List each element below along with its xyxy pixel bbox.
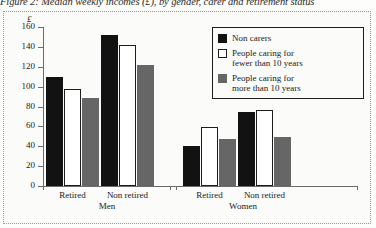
x-axis-group-separator [43,186,44,190]
chart-legend: Non carers People caring for fewer than … [212,27,364,99]
legend-swatch-icon-non-carers [218,34,227,43]
bar [238,112,255,186]
legend-label-line1: Non carers [232,33,271,43]
y-axis-tick-label: 140 [8,42,35,51]
x-axis-group-separator [176,186,177,190]
bar [219,139,236,186]
legend-label-line1: People caring for [232,73,294,83]
y-axis-tick-label: 120 [8,62,35,71]
x-axis-group-separator [357,186,358,190]
bar [119,45,136,186]
y-axis-tick [38,107,44,108]
y-axis-tick-label: 60 [8,121,35,130]
x-axis-category-label: Non retired [83,190,173,200]
y-axis-tick [38,126,44,127]
legend-swatch-icon-more-than-10-years [218,74,227,83]
bar [256,110,273,186]
legend-item-more-than-10-years: People caring for more than 10 years [218,73,359,93]
bar [183,146,200,186]
y-axis-tick [38,146,44,147]
y-axis-tick [38,87,44,88]
y-axis-tick [38,67,44,68]
x-axis-line [43,186,357,187]
legend-item-non-carers: Non carers [218,33,359,43]
legend-label-fewer-than-10-years: People caring for fewer than 10 years [232,48,303,68]
legend-label-non-carers: Non carers [232,33,271,43]
legend-label-line2: more than 10 years [232,83,301,93]
legend-label-line2: fewer than 10 years [232,58,303,68]
y-axis-tick-label: 160 [8,22,35,31]
bar [82,98,99,186]
bar [201,127,218,186]
x-axis-supercategory-label: Men [67,201,147,211]
legend-swatch-icon-fewer-than-10-years [218,49,227,58]
bar [46,77,63,186]
legend-item-fewer-than-10-years: People caring for fewer than 10 years [218,48,359,68]
y-axis-tick-label: 80 [8,102,35,111]
y-axis-tick [38,166,44,167]
bar [64,89,81,186]
x-axis-category-label: Non retired [220,190,310,200]
x-axis-supercategory-label: Women [203,201,283,211]
y-axis-tick-label: 0 [8,181,35,190]
legend-label-line1: People caring for [232,48,294,58]
chart-title: Figure 2: Median weekly incomes (£), by … [0,0,376,8]
bar [274,137,291,186]
y-axis-tick [38,47,44,48]
figure-container: Figure 2: Median weekly incomes (£), by … [0,0,376,228]
y-axis-tick-label: 40 [8,141,35,150]
legend-label-more-than-10-years: People caring for more than 10 years [232,73,301,93]
x-axis-group-separator [170,186,171,190]
bar [101,35,118,186]
bar [137,65,154,186]
y-axis-tick-label: 100 [8,82,35,91]
y-axis-tick-label: 20 [8,161,35,170]
y-axis-tick [38,27,44,28]
